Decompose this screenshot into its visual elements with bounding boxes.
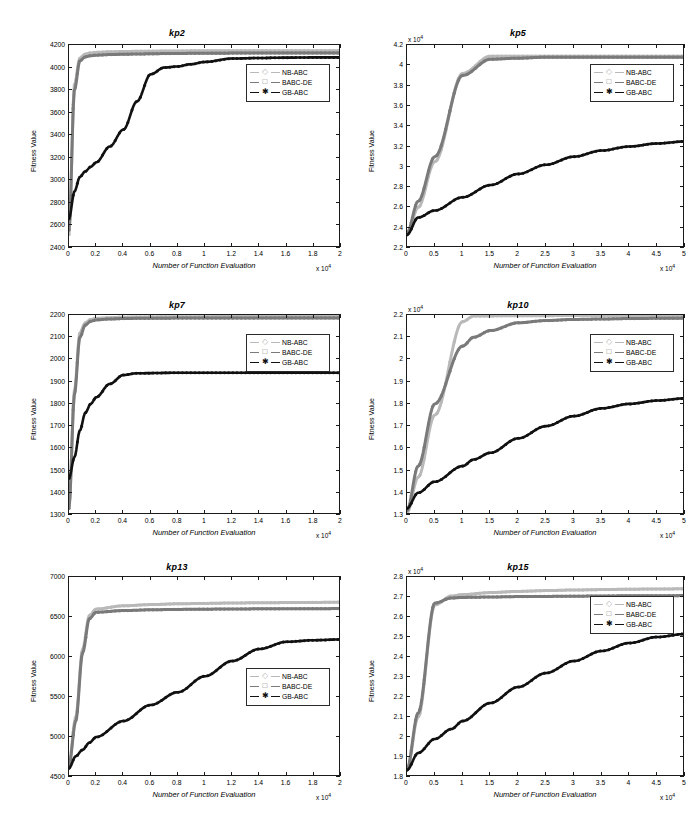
x-tick-mark — [684, 772, 685, 776]
y-tick-mark-right — [680, 776, 684, 777]
y-tick-mark — [68, 157, 72, 158]
legend-dash-right — [615, 624, 624, 625]
x-axis-exponent: x 104 — [660, 263, 675, 272]
series-markers-GB-ABC — [407, 633, 683, 772]
legend-item-BABC-DE[interactable]: □BABC-DE — [594, 77, 670, 87]
legend-symbol-BABC-DE: □ — [250, 347, 280, 357]
x-tick-mark — [628, 510, 629, 514]
x-tick-mark — [286, 243, 287, 247]
x-tick-label: 5 — [682, 250, 686, 257]
x-tick-mark — [573, 243, 574, 247]
y-tick-label: 4.2 — [376, 41, 403, 48]
series-line-GB-ABC — [69, 373, 340, 479]
x-tick-mark-top — [258, 44, 259, 48]
legend-item-GB-ABC[interactable]: ✱GB-ABC — [594, 87, 670, 97]
legend-item-GB-ABC[interactable]: ✱GB-ABC — [250, 691, 326, 701]
x-tick-mark — [601, 243, 602, 247]
y-tick-mark-right — [680, 403, 684, 404]
x-tick-mark — [517, 772, 518, 776]
legend-item-NB-ABC[interactable]: ◇NB-ABC — [250, 337, 326, 347]
series-line-GB-ABC — [407, 634, 684, 770]
legend-item-BABC-DE[interactable]: □BABC-DE — [250, 681, 326, 691]
x-tick-mark — [601, 510, 602, 514]
x-tick-label: 0 — [66, 250, 70, 257]
x-tick-mark — [656, 243, 657, 247]
legend-item-NB-ABC[interactable]: ◇NB-ABC — [594, 67, 670, 77]
legend-item-GB-ABC[interactable]: ✱GB-ABC — [594, 357, 670, 367]
legend-dash-left — [250, 696, 259, 697]
chart-panel-kp13: kp1300.20.40.60.811.21.41.61.82450050005… — [8, 562, 346, 830]
legend-label: NB-ABC — [280, 673, 308, 680]
legend-item-BABC-DE[interactable]: □BABC-DE — [250, 77, 326, 87]
y-tick-mark — [68, 576, 72, 577]
y-tick-label: 2.1 — [376, 713, 403, 720]
x-tick-mark — [340, 243, 341, 247]
legend-item-BABC-DE[interactable]: □BABC-DE — [250, 347, 326, 357]
x-tick-mark — [462, 243, 463, 247]
y-tick-label: 2400 — [38, 244, 65, 251]
series-line-GB-ABC — [407, 398, 684, 508]
chart-title-kp7: kp7 — [8, 300, 346, 310]
x-tick-mark-top — [313, 576, 314, 580]
x-tick-mark-top — [122, 576, 123, 580]
x-tick-label: 0.2 — [90, 517, 99, 524]
legend-label: GB-ABC — [280, 693, 308, 700]
x-axis-label: Number of Function Evaluation — [68, 528, 340, 537]
chart-title-kp5: kp5 — [348, 28, 688, 38]
x-tick-mark-top — [462, 576, 463, 580]
legend-dash-left — [250, 342, 259, 343]
y-tick-label: 4200 — [38, 41, 65, 48]
x-tick-label: 5 — [682, 779, 686, 786]
x-tick-mark-top — [684, 576, 685, 580]
legend-label: BABC-DE — [624, 611, 656, 618]
legend-dash-right — [271, 82, 280, 83]
y-tick-mark-right — [680, 492, 684, 493]
legend-symbol-NB-ABC: ◇ — [250, 337, 280, 347]
x-exp-power: 4 — [328, 792, 331, 798]
y-tick-label: 1300 — [38, 511, 65, 518]
legend-item-GB-ABC[interactable]: ✱GB-ABC — [594, 619, 670, 629]
chart-title-kp2: kp2 — [8, 28, 346, 38]
y-axis-label: Fitness Value — [368, 130, 375, 172]
chart-title-kp13: kp13 — [8, 562, 346, 572]
y-tick-mark-right — [680, 425, 684, 426]
y-tick-label: 3600 — [38, 108, 65, 115]
legend-item-NB-ABC[interactable]: ◇NB-ABC — [250, 67, 326, 77]
legend-kp15: ◇NB-ABC□BABC-DE✱GB-ABC — [590, 596, 674, 634]
x-tick-mark — [231, 243, 232, 247]
y-tick-mark-right — [336, 616, 340, 617]
legend-item-NB-ABC[interactable]: ◇NB-ABC — [594, 337, 670, 347]
y-tick-mark-right — [336, 776, 340, 777]
legend-item-NB-ABC[interactable]: ◇NB-ABC — [250, 671, 326, 681]
x-tick-label: 0 — [404, 517, 408, 524]
legend-item-GB-ABC[interactable]: ✱GB-ABC — [250, 357, 326, 367]
x-tick-label: 2 — [338, 250, 342, 257]
y-tick-mark — [68, 247, 72, 248]
x-exp-power: 4 — [672, 792, 675, 798]
x-tick-mark-top — [434, 44, 435, 48]
legend-item-GB-ABC[interactable]: ✱GB-ABC — [250, 87, 326, 97]
chart-panel-kp7: kp700.20.40.60.811.21.41.61.821300140015… — [8, 300, 346, 568]
x-tick-mark-top — [204, 314, 205, 318]
y-tick-mark — [68, 470, 72, 471]
x-axis-exponent: x 104 — [316, 530, 331, 539]
y-tick-label: 2.6 — [376, 613, 403, 620]
legend-symbol-GB-ABC: ✱ — [594, 357, 624, 367]
x-tick-mark — [489, 772, 490, 776]
y-axis-label: Fitness Value — [30, 130, 37, 172]
x-tick-label: 2 — [515, 517, 519, 524]
y-tick-mark — [68, 336, 72, 337]
x-tick-mark — [122, 243, 123, 247]
x-tick-mark-top — [286, 576, 287, 580]
y-tick-label: 2.5 — [376, 633, 403, 640]
x-tick-label: 0.8 — [172, 517, 181, 524]
legend-item-NB-ABC[interactable]: ◇NB-ABC — [594, 599, 670, 609]
y-exp-text: x 10 — [408, 36, 420, 43]
legend-item-BABC-DE[interactable]: □BABC-DE — [594, 609, 670, 619]
y-tick-label: 3.6 — [376, 101, 403, 108]
x-tick-mark — [517, 510, 518, 514]
y-tick-mark — [406, 125, 410, 126]
legend-item-BABC-DE[interactable]: □BABC-DE — [594, 347, 670, 357]
legend-marker-GB-ABC-icon: ✱ — [606, 358, 613, 366]
y-tick-mark-right — [336, 358, 340, 359]
